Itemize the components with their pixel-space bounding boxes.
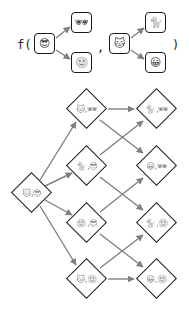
- argument-separator: ,: [97, 41, 104, 53]
- lattice-right-node-3: 🐈,🙂: [136, 202, 178, 244]
- lattice-right-node-2: 😀,🕶: [136, 145, 178, 187]
- arg2-target-bottom-box: 😀: [145, 52, 166, 73]
- sunglasses-icon: 🕶: [157, 161, 168, 171]
- node-label: 🐱,🙂: [66, 258, 108, 300]
- node-label: 😀,🙂: [136, 258, 178, 300]
- slight-smile-icon: 🙂: [76, 218, 87, 228]
- grinning-face-icon: 😀: [150, 57, 161, 68]
- lattice-middle-node-1: 🐱,🕶: [66, 88, 108, 130]
- node-label: 🐱,🕶: [66, 88, 108, 130]
- cat-icon: 🐈: [149, 17, 163, 28]
- node-label: 😀,🕶: [136, 145, 178, 187]
- cat-face-icon: 🐱: [76, 104, 84, 114]
- lattice-middle-node-3: 🙂,😎: [66, 202, 108, 244]
- arrow-cool-to-smile: [56, 50, 70, 59]
- cat-icon: 🐈: [145, 218, 156, 228]
- cat-face-icon: 🐱: [114, 38, 125, 49]
- arrow-cool-to-sunglasses: [56, 27, 70, 38]
- cool-face-icon: 😎: [39, 38, 50, 49]
- lattice-arrows: [40, 109, 143, 279]
- arg2-source-box: 🐱: [109, 33, 130, 54]
- slight-smile-icon: 🙂: [87, 274, 98, 284]
- cat-face-icon: 🐱: [23, 188, 31, 198]
- node-label: 🐈,😎: [66, 145, 108, 187]
- grinning-face-icon: 😀: [146, 161, 154, 171]
- grinning-face-icon: 😀: [146, 274, 154, 284]
- cat-icon: 🐈: [76, 161, 87, 171]
- node-label: 🐈,🙂: [136, 202, 178, 244]
- cat-icon: 🐈: [145, 104, 156, 114]
- arg2-target-top-box: 🐈: [145, 12, 166, 33]
- slight-smile-icon: 🙂: [158, 218, 169, 228]
- slight-smile-icon: 🙂: [157, 274, 168, 284]
- cat-face-icon: 🐱: [76, 274, 84, 284]
- function-close-paren: ): [172, 39, 179, 51]
- sunglasses-icon: 🕶: [87, 104, 98, 114]
- function-name: f(: [17, 39, 31, 51]
- lattice-middle-node-2: 🐈,😎: [66, 145, 108, 187]
- arg1-target-bottom-box: 🙂: [71, 52, 92, 73]
- arrow-catface-to-grin: [131, 50, 144, 59]
- lattice-root-node: 🐱,😎: [11, 172, 53, 214]
- arg1-source-box: 😎: [34, 33, 55, 54]
- lattice-right-node-4: 😀,🙂: [136, 258, 178, 300]
- node-label: 🐱,😎: [11, 172, 53, 214]
- sunglasses-icon: 🕶: [158, 104, 169, 114]
- node-label: 🙂,😎: [66, 202, 108, 244]
- lattice-middle-node-4: 🐱,🙂: [66, 258, 108, 300]
- arg1-target-top-box: 🕶: [71, 12, 92, 33]
- cool-face-icon: 😎: [89, 218, 97, 228]
- node-label: 🐈,🕶: [136, 88, 178, 130]
- cool-face-icon: 😎: [33, 188, 41, 198]
- arrow-catface-to-cat: [131, 28, 144, 38]
- sunglasses-icon: 🕶: [75, 17, 89, 28]
- lattice-right-node-1: 🐈,🕶: [136, 88, 178, 130]
- slight-smile-icon: 🙂: [75, 57, 89, 68]
- cool-face-icon: 😎: [89, 161, 97, 171]
